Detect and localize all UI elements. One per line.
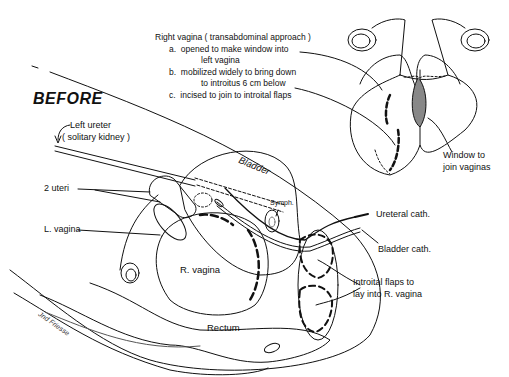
label-rectum: Rectum bbox=[207, 322, 240, 333]
notes-marker: c. bbox=[169, 90, 176, 100]
anus bbox=[263, 342, 281, 355]
two-uteri-leader bbox=[78, 189, 160, 202]
notes-a-leader bbox=[300, 52, 382, 90]
window-leader bbox=[428, 118, 452, 152]
label-r-vagina: R. vagina bbox=[180, 264, 220, 275]
notes-heading: Right vagina ( transabdominal approach ) bbox=[155, 32, 311, 44]
notes-item-b-cont: to introitus 6 cm below bbox=[155, 78, 311, 90]
bladder-inner-dashed bbox=[195, 178, 285, 212]
introital-flap-lower-dashed bbox=[299, 286, 332, 332]
ureteral-orifice-dashed bbox=[194, 193, 212, 207]
notes-item-a: a. opened to make window into bbox=[155, 44, 311, 56]
notes-text: incised to join to introital flaps bbox=[180, 90, 291, 100]
notes-block: Right vagina ( transabdominal approach )… bbox=[155, 32, 311, 101]
notes-item-a-cont: left vagina bbox=[155, 55, 311, 67]
ureteral-catheter bbox=[225, 188, 355, 240]
l-vagina-leader bbox=[78, 230, 160, 235]
notes-text: opened to make window into bbox=[181, 44, 289, 54]
uterus-2 bbox=[148, 199, 192, 246]
label-symphysis: Symph. bbox=[270, 199, 294, 206]
ovary-left bbox=[121, 263, 139, 283]
left-ureter bbox=[55, 146, 195, 186]
notes-text: mobilized widely to bring down bbox=[181, 67, 296, 77]
bladder bbox=[180, 151, 300, 275]
label-left-ureter: Left ureter bbox=[70, 120, 111, 131]
rectum bbox=[40, 283, 330, 362]
label-introital-flaps-1: Introital flaps to bbox=[353, 277, 414, 288]
r-vagina-incision-dashed-2 bbox=[200, 215, 233, 225]
label-solitary-kidney: ( solitary kidney ) bbox=[62, 132, 130, 143]
notes-item-b: b. mobilized widely to bring down bbox=[155, 67, 311, 79]
notes-marker: b. bbox=[169, 67, 176, 77]
r-vagina-incision-dashed bbox=[248, 230, 259, 300]
bladder-cath-pointer bbox=[362, 230, 378, 243]
label-l-vagina: L. vagina bbox=[44, 224, 81, 235]
posterior-outline bbox=[14, 293, 268, 375]
bladder-catheter-a bbox=[217, 202, 360, 247]
label-ureteral-cath: Ureteral cath. bbox=[376, 209, 430, 220]
label-introital-flaps-2: lay into R. vagina bbox=[353, 289, 422, 300]
label-window-2: join vaginas bbox=[443, 162, 491, 173]
notes-item-c: c. incised to join to introital flaps bbox=[155, 90, 311, 102]
notes-marker: a. bbox=[169, 44, 176, 54]
ureteral-cath-pointer bbox=[355, 214, 368, 217]
diagram-title: BEFORE bbox=[33, 90, 103, 108]
label-two-uteri: 2 uteri bbox=[44, 183, 69, 194]
introital-flap-upper-dashed bbox=[300, 235, 333, 278]
surgical-diagram: BEFORE Right vagina ( transabdominal app… bbox=[0, 0, 509, 377]
label-window-1: Window to bbox=[443, 150, 485, 161]
label-bladder-cath: Bladder cath. bbox=[378, 244, 431, 255]
